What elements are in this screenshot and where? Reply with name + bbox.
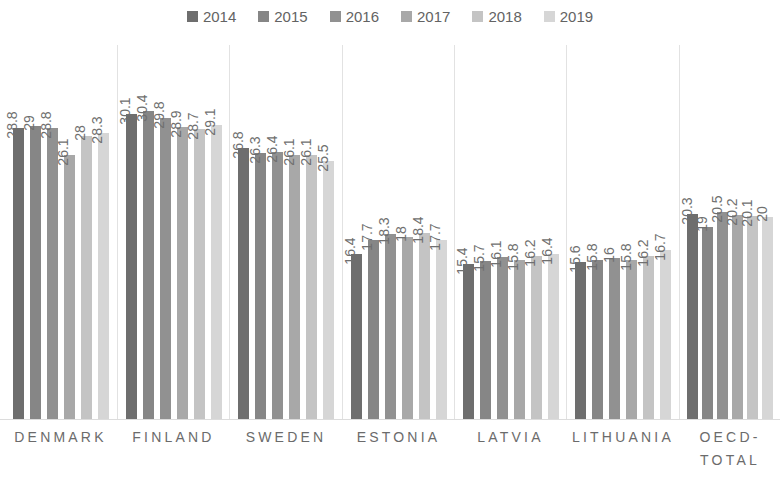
bar[interactable]: [143, 111, 154, 420]
bar[interactable]: [368, 240, 379, 420]
bar-slot: 15.8: [623, 42, 640, 420]
bar[interactable]: [747, 216, 758, 420]
bar-value-label: 28.3: [92, 116, 103, 143]
bar[interactable]: [323, 161, 334, 420]
bar[interactable]: [514, 260, 525, 420]
legend-item[interactable]: 2017: [401, 9, 450, 24]
legend-item[interactable]: 2018: [472, 9, 521, 24]
legend-label: 2017: [417, 9, 450, 24]
bar[interactable]: [463, 264, 474, 420]
legend-swatch-icon: [330, 11, 341, 22]
bar-slot: 26.1: [303, 42, 320, 420]
bar[interactable]: [47, 128, 58, 420]
bar[interactable]: [255, 153, 266, 420]
bar-slot: 17.7: [433, 42, 450, 420]
bar-value-label: 30.4: [137, 94, 148, 121]
legend-label: 2015: [274, 9, 307, 24]
bar-slot: 28.7: [191, 42, 208, 420]
bar-value-label: 15.4: [457, 247, 468, 274]
bar[interactable]: [238, 148, 249, 420]
legend-item[interactable]: 2016: [330, 9, 379, 24]
bar-group: 20.31920.520.220.120: [680, 42, 780, 420]
bar[interactable]: [762, 217, 773, 420]
bar-group-bars: 15.615.81615.816.216.7: [567, 42, 679, 420]
bar[interactable]: [194, 129, 205, 420]
bar[interactable]: [436, 240, 447, 420]
bar[interactable]: [64, 155, 75, 420]
bar-value-label: 15.7: [474, 244, 485, 271]
legend-item[interactable]: 2014: [187, 9, 236, 24]
bar[interactable]: [717, 212, 728, 420]
legend-swatch-icon: [401, 11, 412, 22]
category-label: SWEDEN: [230, 426, 342, 449]
bar-slot: 15.8: [589, 42, 606, 420]
bar[interactable]: [177, 127, 188, 420]
bar[interactable]: [702, 227, 713, 420]
bar-group-bars: 20.31920.520.220.120: [680, 42, 780, 420]
legend-item[interactable]: 2019: [544, 9, 593, 24]
bar[interactable]: [13, 128, 24, 420]
bar[interactable]: [272, 152, 283, 420]
bar[interactable]: [687, 214, 698, 420]
legend-swatch-icon: [544, 11, 555, 22]
bar-group: 16.417.718.31818.417.7: [343, 42, 454, 420]
bar[interactable]: [732, 215, 743, 420]
bar-value-label: 28.8: [41, 111, 52, 138]
legend-item[interactable]: 2015: [258, 9, 307, 24]
bar[interactable]: [660, 250, 671, 420]
bar[interactable]: [160, 118, 171, 420]
legend-label: 2014: [203, 9, 236, 24]
bar-slot: 25.5: [320, 42, 337, 420]
bar-group: 28.82928.826.12828.3: [4, 42, 117, 420]
bar-slot: 16.4: [545, 42, 562, 420]
bar-slot: 26.1: [61, 42, 78, 420]
bar-slot: 29.1: [208, 42, 225, 420]
legend-swatch-icon: [472, 11, 483, 22]
bar-slot: 15.4: [460, 42, 477, 420]
bar[interactable]: [98, 133, 109, 420]
bar[interactable]: [211, 125, 222, 420]
bar-group-bars: 26.826.326.426.126.125.5: [230, 42, 342, 420]
bar-group-bars: 16.417.718.31818.417.7: [343, 42, 454, 420]
bar[interactable]: [81, 136, 92, 420]
bar[interactable]: [531, 256, 542, 420]
bar[interactable]: [643, 256, 654, 420]
bar[interactable]: [126, 114, 137, 420]
bar[interactable]: [626, 260, 637, 420]
bar-group: 15.615.81615.816.216.7: [567, 42, 679, 420]
bar[interactable]: [306, 155, 317, 420]
bar[interactable]: [419, 233, 430, 420]
bar-value-label: 20.3: [682, 197, 693, 224]
bar[interactable]: [289, 155, 300, 420]
bar-value-label: 26.3: [250, 136, 261, 163]
bar-value-label: 25.5: [318, 144, 329, 171]
bar[interactable]: [351, 254, 362, 420]
category-label: OECD-TOTAL: [680, 426, 780, 472]
bar-group: 15.415.716.115.816.216.4: [455, 42, 566, 420]
bar[interactable]: [30, 126, 41, 420]
bar-slot: 15.7: [477, 42, 494, 420]
legend-label: 2016: [346, 9, 379, 24]
bar[interactable]: [480, 261, 491, 420]
bar-slot: 29: [27, 42, 44, 420]
bar-group-bars: 28.82928.826.12828.3: [4, 42, 117, 420]
bar-value-label: 20.1: [742, 199, 753, 226]
bar-value-label: 16.7: [655, 233, 666, 260]
bar-value-label: 29.8: [154, 101, 165, 128]
bar[interactable]: [592, 260, 603, 420]
bar[interactable]: [497, 257, 508, 420]
bar[interactable]: [609, 258, 620, 420]
bar-slot: 19: [700, 42, 715, 420]
bar-value-label: 17.7: [362, 223, 373, 250]
bar[interactable]: [402, 237, 413, 420]
bar[interactable]: [385, 234, 396, 420]
bar[interactable]: [548, 254, 559, 420]
bar-value-label: 15.6: [570, 245, 581, 272]
bar-slot: 20.1: [745, 42, 760, 420]
bar-value-label: 16: [604, 247, 615, 263]
bar[interactable]: [575, 262, 586, 420]
bar-slot: 28.8: [10, 42, 27, 420]
bar-value-label: 20.2: [727, 198, 738, 225]
bar-group-bars: 15.415.716.115.816.216.4: [455, 42, 566, 420]
bar-slot: 26.3: [252, 42, 269, 420]
